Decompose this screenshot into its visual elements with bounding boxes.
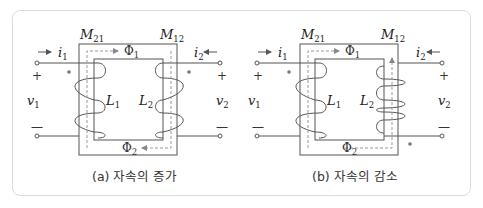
svg-text:—: —: [252, 120, 264, 134]
svg-text:v2: v2: [216, 93, 229, 110]
svg-text:+: +: [253, 69, 263, 83]
svg-text:v1: v1: [248, 93, 261, 110]
coil-l1: [75, 63, 106, 138]
svg-text:i1: i1: [58, 45, 68, 62]
labels-a: M21 M12 i1 i2 v1 v2 L1 L2 Φ1 Φ2 + + — —: [27, 27, 229, 157]
svg-text:+: +: [217, 69, 227, 83]
svg-text:v1: v1: [27, 93, 40, 110]
svg-text:Φ2: Φ2: [342, 141, 357, 157]
svg-text:+: +: [439, 69, 449, 83]
svg-text:—: —: [31, 120, 43, 134]
svg-text:+: +: [32, 69, 42, 83]
svg-text:i2: i2: [416, 45, 426, 62]
svg-text:Φ1: Φ1: [124, 44, 139, 60]
svg-text:i1: i1: [278, 45, 288, 62]
svg-text:Φ2: Φ2: [122, 141, 137, 157]
svg-text:—: —: [216, 120, 228, 134]
svg-text:i2: i2: [194, 45, 204, 62]
svg-text:v2: v2: [438, 93, 451, 110]
svg-text:L1: L1: [326, 93, 341, 110]
caption-b: (b) 자속의 감소: [312, 166, 398, 185]
svg-text:L2: L2: [138, 93, 153, 110]
svg-text:M21: M21: [79, 27, 104, 44]
svg-text:M21: M21: [300, 27, 325, 44]
coil-l1: [296, 63, 327, 138]
coil-l2: [156, 63, 184, 138]
svg-text:L1: L1: [105, 93, 120, 110]
coil-l2: [377, 66, 406, 133]
svg-text:M12: M12: [159, 27, 184, 44]
caption-a: (a) 자속의 증가: [92, 166, 177, 185]
svg-text:Φ1: Φ1: [345, 44, 360, 60]
labels-b: M21 M12 i1 i2 v1 v2 L1 L2 Φ1 Φ2 + + — —: [248, 27, 451, 157]
svg-text:—: —: [438, 120, 450, 134]
transformer-diagrams: M21 M12 i1 i2 v1 v2 L1 L2 Φ1 Φ2 + + — —: [0, 0, 483, 208]
svg-text:M12: M12: [380, 27, 405, 44]
svg-text:L2: L2: [359, 93, 374, 110]
